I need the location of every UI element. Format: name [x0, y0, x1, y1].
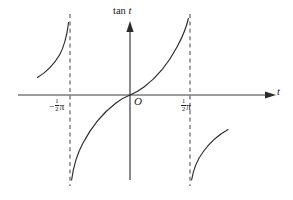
- minus-sign: −: [49, 102, 54, 112]
- x-axis-title: t: [277, 87, 280, 98]
- tangent-function-graph: [0, 0, 293, 200]
- origin-label: O: [134, 96, 142, 107]
- fraction-denominator: 2: [181, 105, 185, 113]
- x-tick-label-positive-half-pi: 12π: [181, 98, 191, 112]
- y-axis-title-function: tan: [113, 5, 126, 16]
- y-axis-title: tan t: [113, 6, 131, 17]
- x-tick-label-negative-half-pi: −12π: [49, 98, 64, 112]
- pi-symbol: π: [59, 102, 64, 112]
- figure-background: [0, 0, 293, 200]
- pi-symbol: π: [186, 102, 191, 112]
- y-axis-title-variable: t: [128, 5, 131, 16]
- fraction-one-half: 12: [181, 98, 185, 112]
- fraction-numerator: 1: [181, 98, 185, 105]
